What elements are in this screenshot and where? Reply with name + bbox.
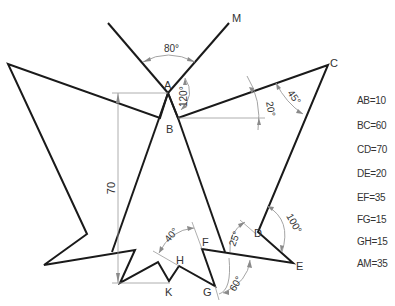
length-ab: AB=10 [357,95,386,106]
arrow-icon [143,57,151,62]
arrow-icon [159,246,164,253]
arrow-icon [187,226,194,231]
reference-line-g [215,286,219,300]
arc-20 [247,76,259,130]
angle-40-label: 40° [162,226,180,245]
point-label-a: A [164,79,172,91]
point-label-h: H [176,254,184,266]
arrow-icon [247,260,252,268]
line-a-down-left [112,93,168,252]
length-de: DE=20 [357,168,386,179]
segment-am [168,23,229,93]
angle-80-label: 80° [164,43,179,54]
point-label-d: D [254,227,262,239]
angle-100-label: 100° [284,212,304,235]
reference-line-h-top [192,222,202,249]
arrow-icon [257,118,261,125]
main-outline [8,64,328,286]
length-gh: GH=15 [357,236,387,247]
geometry-drawing: 70 80° 120° 20° 45° 100° 25° 60° 40° M A… [0,0,395,306]
point-label-g: G [203,286,212,298]
point-label-b: B [166,123,173,135]
angle-25-label: 25° [227,230,243,248]
segment-ab-right [168,93,178,118]
point-label-c: C [330,57,338,69]
arrow-icon [276,83,281,90]
ray-left-top [108,23,168,93]
arrow-down-icon [116,273,120,283]
arrow-icon [187,57,195,62]
length-cd: CD=70 [357,144,387,155]
point-label-m: M [232,12,241,24]
arrow-icon [183,78,187,85]
arc-100 [267,206,285,252]
length-bc: BC=60 [357,120,386,131]
angle-120-label: 120° [178,86,189,107]
arrow-up-icon [116,93,120,103]
angle-60-label: 60° [227,274,244,293]
point-label-e: E [296,260,303,272]
arrow-icon [238,222,245,228]
point-label-f: F [202,236,209,248]
length-fg: FG=15 [357,214,386,225]
dim-label-70: 70 [105,182,117,194]
angle-45-label: 45° [285,88,303,107]
point-label-k: K [165,286,173,298]
line-b-down-right [178,118,225,252]
length-ef: EF=35 [357,192,385,203]
angle-20-label: 20° [264,100,277,117]
length-am: AM=35 [357,258,387,269]
